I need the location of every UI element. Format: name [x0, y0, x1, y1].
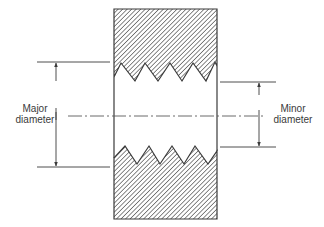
- minor-diameter-label-line1: Minor: [264, 103, 322, 114]
- thread-diagram: Major diameter Minor diameter: [0, 0, 324, 227]
- major-diameter-label: Major diameter: [6, 103, 64, 125]
- minor-diameter-label: Minor diameter: [264, 103, 322, 125]
- lower-hatched-section: [114, 146, 217, 219]
- upper-hatched-section: [114, 9, 217, 81]
- minor-diameter-label-line2: diameter: [264, 114, 322, 125]
- major-diameter-label-line2: diameter: [6, 114, 64, 125]
- major-diameter-label-line1: Major: [6, 103, 64, 114]
